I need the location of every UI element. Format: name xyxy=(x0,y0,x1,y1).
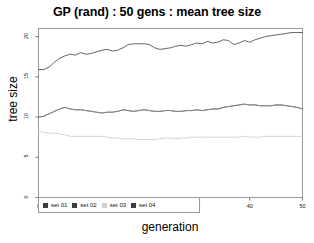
series-line-set-04 xyxy=(39,104,303,117)
series-line-set-03 xyxy=(39,132,303,140)
legend-label: set 04 xyxy=(139,202,155,208)
legend-entry-set-04[interactable]: set 04 xyxy=(131,202,155,208)
legend-entry-set-03[interactable]: set 03 xyxy=(102,202,126,208)
legend-swatch-icon xyxy=(131,203,136,208)
legend-swatch-icon xyxy=(43,203,48,208)
series-line-set-01 xyxy=(39,33,303,70)
legend-label: set 02 xyxy=(80,202,96,208)
legend-swatch-icon xyxy=(102,203,107,208)
legend-swatch-icon xyxy=(72,203,77,208)
chart-figure: GP (rand) : 50 gens : mean tree size tre… xyxy=(0,0,314,243)
legend-entry-set-02[interactable]: set 02 xyxy=(72,202,96,208)
legend-label: set 03 xyxy=(110,202,126,208)
legend-entry-set-01[interactable]: set 01 xyxy=(43,202,67,208)
chart-legend: set 01set 02set 03set 04 xyxy=(38,197,200,213)
legend-label: set 01 xyxy=(51,202,67,208)
